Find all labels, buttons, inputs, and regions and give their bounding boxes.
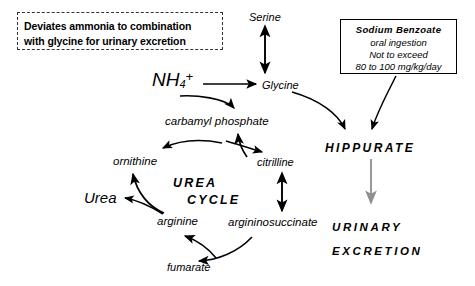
- edge-fumarate-arginine: [185, 236, 216, 258]
- node-label-serine: Serine: [249, 12, 281, 23]
- urea-cycle-line-1: UREA: [173, 176, 217, 190]
- note-line-1: Deviates ammonia to combination: [24, 20, 191, 32]
- edge-carbamyl-citrulline: [226, 141, 262, 152]
- edge-carbamyl-ornithine: [163, 141, 222, 148]
- node-label-carbamyl-phosphate: carbamyl phosphate: [165, 116, 269, 128]
- urinary-line-1: URINARY: [332, 221, 402, 233]
- node-label-ornithine: ornithine: [113, 156, 157, 168]
- sodium-benzoate-box: Sodium Benzoate oral ingestion Not to ex…: [340, 19, 457, 74]
- edge-ammonium-carbamyl: [180, 96, 234, 108]
- drug-box-line-4: 80 to 100 mg/kg/day: [341, 61, 456, 72]
- diagram-canvas: Deviates ammonia to combination with gly…: [0, 0, 475, 286]
- edge-arginine-urea: [125, 198, 163, 214]
- urinary-line-2: EXCRETION: [332, 239, 423, 263]
- annotation-note-box: Deviates ammonia to combination with gly…: [17, 12, 223, 50]
- edge-benzoate-hippurate: [372, 76, 396, 129]
- node-label-urea: Urea: [84, 190, 117, 205]
- node-label-fumarate: fumarate: [167, 262, 210, 273]
- node-label-hippurate: HIPPURATE: [325, 141, 415, 155]
- drug-box-title: Sodium Benzoate: [341, 24, 456, 35]
- ammonium-superscript: +: [186, 69, 194, 84]
- edge-arginine-ornithine: [133, 174, 164, 213]
- node-label-glycine: Glycine: [262, 80, 299, 91]
- drug-box-line-2: oral ingestion: [341, 37, 456, 48]
- edge-glycine-hippurate: [292, 92, 345, 129]
- drug-box-line-3: Not to exceed: [341, 49, 456, 60]
- node-label-citrulline: citrilline: [257, 157, 294, 168]
- node-label-ammonium: NH4+: [152, 70, 193, 90]
- ammonium-base: NH: [152, 69, 179, 90]
- node-label-arginine: arginine: [157, 216, 198, 228]
- urea-cycle-title: UREA CYCLE: [173, 175, 240, 209]
- node-label-argininosuccinate: argininosuccinate: [228, 217, 318, 229]
- urea-cycle-line-2: CYCLE: [173, 192, 240, 209]
- node-label-urinary-excretion: URINARY EXCRETION: [332, 215, 423, 263]
- note-line-2: with glycine for urinary excretion: [24, 35, 186, 47]
